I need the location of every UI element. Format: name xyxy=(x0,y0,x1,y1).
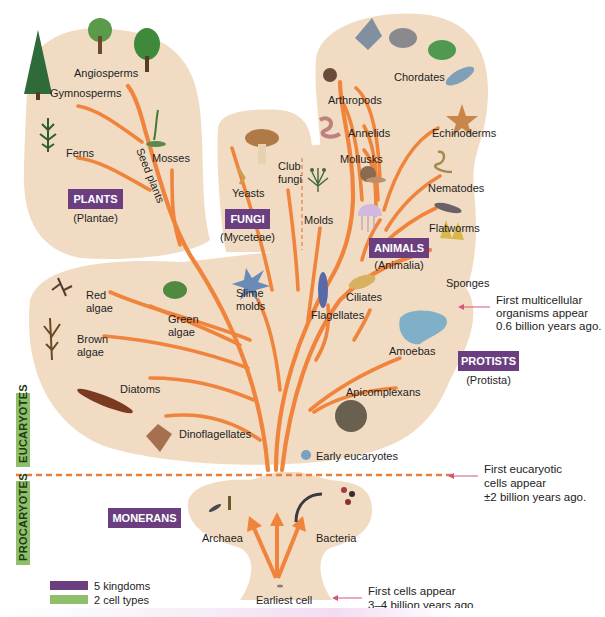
animals-kingdom-name: ANIMALS xyxy=(374,242,424,254)
procaryotes-label: PROCARYOTES xyxy=(17,473,29,561)
eucaryotes-bar: EUCARYOTES xyxy=(16,384,30,467)
label-nematodes: Nematodes xyxy=(428,182,485,194)
protists-kingdom-label: PROTISTS (Protista) xyxy=(458,351,519,386)
label-slime: Slime xyxy=(236,287,264,299)
svg-text:First cells appear: First cells appear xyxy=(368,585,456,597)
svg-text:First eucaryotic: First eucaryotic xyxy=(484,463,562,475)
eucaryotes-label: EUCARYOTES xyxy=(17,384,29,463)
arrow-left-icon xyxy=(332,595,338,601)
label-mollusks: Mollusks xyxy=(340,153,383,165)
legend: 5 kingdoms 2 cell types xyxy=(50,580,151,606)
label-sponges: Sponges xyxy=(446,277,490,289)
flagellate-icon xyxy=(318,272,328,308)
note-multicellular: First multicellular organisms appear 0.6… xyxy=(458,294,601,332)
monerans-kingdom-label: MONERANS xyxy=(108,508,181,528)
label-club: Club xyxy=(278,160,301,172)
label-mosses: Mosses xyxy=(152,152,190,164)
early-eucaryote-icon xyxy=(301,450,311,460)
label-gymnosperms: Gymnosperms xyxy=(50,87,122,99)
apicomplexan-icon xyxy=(335,400,367,432)
label-flagellates: Flagellates xyxy=(311,309,365,321)
fungi-kingdom-name: FUNGI xyxy=(230,213,264,225)
label-angiosperms: Angiosperms xyxy=(74,67,139,79)
label-yeasts: Yeasts xyxy=(232,187,265,199)
svg-text:cells appear: cells appear xyxy=(484,477,546,489)
tree-of-life-diagram: Angiosperms Gymnosperms Ferns Mosses See… xyxy=(0,0,605,617)
animals-latin-name: (Animalia) xyxy=(374,259,424,271)
plants-kingdom-label: PLANTS (Plantae) xyxy=(68,189,123,224)
svg-text:0.6 billion years ago.: 0.6 billion years ago. xyxy=(496,320,601,332)
svg-text:First multicellular: First multicellular xyxy=(496,294,582,306)
label-dinoflagellates: Dinoflagellates xyxy=(179,428,252,440)
label-amoebas: Amoebas xyxy=(389,345,436,357)
label-archaea: Archaea xyxy=(202,532,244,544)
label-green: Green xyxy=(168,313,199,325)
label-molds: Molds xyxy=(304,214,334,226)
insect-icon xyxy=(323,68,337,82)
legend-label-kingdoms: 5 kingdoms xyxy=(94,580,151,592)
label-annelids: Annelids xyxy=(348,127,391,139)
fungi-latin-name: (Myceteae) xyxy=(220,231,275,243)
label-ciliates: Ciliates xyxy=(346,291,383,303)
label-brown: Brown xyxy=(77,333,108,345)
plants-latin-name: (Plantae) xyxy=(73,212,118,224)
animals-kingdom-label: ANIMALS (Animalia) xyxy=(369,238,429,271)
label-red-algae: algae xyxy=(86,302,113,314)
label-earliest-cell: Earliest cell xyxy=(256,594,312,606)
green-algae-icon xyxy=(163,281,187,299)
label-bacteria: Bacteria xyxy=(316,532,357,544)
label-echinoderms: Echinoderms xyxy=(432,127,497,139)
earliest-cell-icon xyxy=(277,585,283,588)
label-red: Red xyxy=(86,289,106,301)
protists-kingdom-name: PROTISTS xyxy=(461,355,516,367)
legend-swatch-cell-types xyxy=(50,595,88,604)
fungi-kingdom-label: FUNGI (Myceteae) xyxy=(220,209,275,243)
svg-text:organisms appear: organisms appear xyxy=(496,307,588,319)
plants-region xyxy=(24,28,210,259)
mouse-icon xyxy=(389,28,417,48)
label-slime-molds: molds xyxy=(236,300,266,312)
label-diatoms: Diatoms xyxy=(120,383,161,395)
svg-text:±2 billion years ago.: ±2 billion years ago. xyxy=(484,491,586,503)
note-eucaryotic: First eucaryotic cells appear ±2 billion… xyxy=(448,463,586,503)
protists-latin-name: (Protista) xyxy=(466,374,511,386)
label-flatworms: Flatworms xyxy=(429,222,480,234)
figure-caption-strip xyxy=(0,608,605,617)
monerans-kingdom-name: MONERANS xyxy=(112,512,176,524)
frog-icon xyxy=(428,40,456,60)
label-chordates: Chordates xyxy=(394,71,445,83)
label-arthropods: Arthropods xyxy=(328,94,382,106)
label-ferns: Ferns xyxy=(66,147,95,159)
legend-swatch-kingdoms xyxy=(50,581,88,590)
legend-label-cell-types: 2 cell types xyxy=(94,594,150,606)
label-early-eucaryotes: Early eucaryotes xyxy=(316,450,398,462)
label-fungi: fungi xyxy=(278,173,302,185)
plants-kingdom-name: PLANTS xyxy=(74,193,118,205)
label-green-algae: algae xyxy=(168,326,195,338)
procaryotes-bar: PROCARYOTES xyxy=(16,473,30,565)
label-brown-algae: algae xyxy=(77,346,104,358)
label-apicomplexans: Apicomplexans xyxy=(346,386,421,398)
